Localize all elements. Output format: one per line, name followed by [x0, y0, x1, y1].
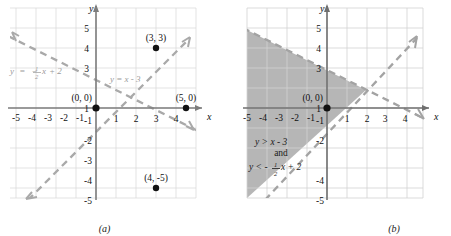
grid-a [10, 8, 196, 198]
solution-line-3-den: 2 [274, 170, 278, 177]
axes-a [8, 4, 202, 200]
y-tick-a-4: -1 [84, 116, 92, 126]
x-tick-b-3: -2 [291, 113, 299, 123]
eq-a-y: y [9, 66, 14, 76]
x-tick-a-2: -3 [44, 113, 52, 123]
y-tick-a-6: -3 [84, 156, 92, 166]
x-tick-b-2: -3 [275, 113, 283, 123]
y-tick-b-7: -5 [316, 196, 324, 206]
point-label-4-neg5: (4, -5) [144, 173, 168, 184]
graph-b: x y -5 -4 -3 -2 -1 1 2 3 4 5 4 3 1 -1 -2… [225, 0, 451, 210]
y-tick-b-1: 4 [316, 44, 321, 54]
line-label-xminus3-a: y = x - 3 [109, 74, 141, 84]
arrow-half-right-a [186, 121, 194, 130]
x-tick-a-7: 3 [154, 114, 159, 124]
caption-a: (a) [0, 223, 217, 234]
x-axis-label-a: x [206, 111, 212, 122]
y-tick-a-8: -5 [84, 196, 92, 206]
x-tick-b-0: -5 [243, 113, 251, 123]
point-3-3: (3, 3) [146, 33, 167, 51]
solution-line-3-num: 1 [274, 161, 277, 168]
line-label-half-a: y = − 1 2 x + 2 [9, 65, 62, 80]
panel-b: x y -5 -4 -3 -2 -1 1 2 3 4 5 4 3 1 -1 -2… [225, 0, 451, 236]
x-tick-a-8: 4 [174, 114, 179, 124]
y-axis-label-b: y [319, 3, 325, 14]
caption-b: (b) [281, 223, 451, 234]
y-tick-a-5: -2 [84, 136, 92, 146]
graph-a: x y -5 -4 -3 -2 -1 1 2 3 4 5 4 3 1 -1 -2… [0, 0, 225, 210]
x-tick-b-8: 4 [403, 114, 408, 124]
figure-two-panel-inequality-graphs: x y -5 -4 -3 -2 -1 1 2 3 4 5 4 3 1 -1 -2… [0, 0, 451, 236]
x-tick-a-3: -2 [60, 113, 68, 123]
x-tick-a-1: -4 [28, 113, 36, 123]
x-tick-a-5: 1 [114, 114, 119, 124]
x-tick-b-6: 2 [365, 114, 370, 124]
solution-line-1: y > x - 3 [254, 137, 288, 147]
x-tick-b-5: 1 [345, 114, 350, 124]
x-tick-b-1: -4 [259, 113, 267, 123]
y-tick-b-0: 5 [316, 24, 321, 34]
y-tick-a-3: 1 [84, 104, 89, 114]
eq-a-num: 1 [35, 65, 38, 72]
y-tick-a-7: -4 [84, 176, 92, 186]
y-tick-a-0: 5 [84, 24, 89, 34]
y-tick-a-1: 4 [84, 44, 89, 54]
dashed-line-half-a [8, 36, 200, 132]
x-tick-b-7: 3 [383, 114, 388, 124]
solution-line-3-post: x + 2 [280, 162, 301, 172]
point-label-3-3: (3, 3) [146, 33, 167, 44]
point-4-neg5: (4, -5) [144, 173, 168, 191]
point-label-5-0: (5, 0) [176, 93, 197, 104]
svg-text:y = −: y = − [9, 66, 38, 76]
eq-a-eq: = [19, 66, 25, 76]
x-tick-a-0: -5 [12, 113, 20, 123]
y-tick-b-2: 3 [316, 64, 321, 74]
y-tick-b-4: -1 [316, 116, 324, 126]
eq-a-plus2: + 2 [49, 66, 62, 76]
y-axis-label-a: y [88, 3, 94, 14]
panel-a: x y -5 -4 -3 -2 -1 1 2 3 4 5 4 3 1 -1 -2… [0, 0, 225, 236]
x-tick-b-4: -1 [307, 113, 315, 123]
eq-a-den: 2 [35, 73, 39, 80]
solution-line-2: and [274, 148, 288, 158]
solution-line-3-pre: y < - [248, 162, 268, 172]
eq-a-var: x [41, 66, 46, 76]
y-tick-b-6: -4 [316, 176, 324, 186]
x-axis-label-b: x [433, 111, 439, 122]
x-tick-a-4: -1 [76, 113, 84, 123]
point-label-0-0-a: (0, 0) [71, 93, 92, 104]
point-label-0-0-b: (0, 0) [302, 93, 323, 104]
y-tick-b-3: 1 [316, 104, 321, 114]
y-tick-a-2: 3 [84, 64, 89, 74]
x-tick-a-6: 2 [134, 114, 139, 124]
y-tick-b-5: -2 [316, 136, 324, 146]
